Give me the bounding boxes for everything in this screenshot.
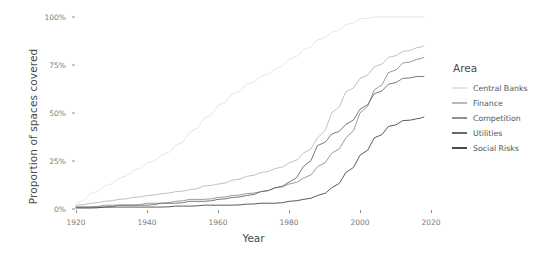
legend-item-label: Competition	[473, 114, 521, 123]
series-line-finance	[76, 46, 424, 205]
chart-figure: Proportion of spaces covered 100%75%50%2…	[0, 0, 551, 253]
legend: Area Central BanksFinanceCompetitionUtil…	[452, 62, 551, 156]
legend-line-icon	[452, 132, 467, 133]
legend-item-label: Finance	[473, 99, 503, 108]
legend-item-competition[interactable]: Competition	[452, 111, 551, 125]
legend-line-icon	[452, 87, 467, 88]
legend-line-icon	[452, 147, 467, 148]
legend-line-icon	[452, 102, 467, 103]
legend-item-utilities[interactable]: Utilities	[452, 126, 551, 140]
series-line-social-risks	[76, 117, 424, 208]
legend-item-label: Utilities	[473, 129, 502, 138]
legend-item-finance[interactable]: Finance	[452, 96, 551, 110]
legend-title: Area	[453, 62, 551, 74]
legend-item-label: Central Banks	[473, 84, 528, 93]
legend-item-social-risks[interactable]: Social Risks	[452, 141, 551, 155]
series-line-competition	[76, 57, 424, 207]
x-axis-title: Year	[76, 232, 431, 244]
series-line-central-banks	[76, 17, 424, 203]
legend-item-label: Social Risks	[473, 144, 519, 153]
legend-line-icon	[452, 117, 467, 118]
legend-item-central-banks[interactable]: Central Banks	[452, 81, 551, 95]
legend-items: Central BanksFinanceCompetitionUtilities…	[452, 81, 551, 155]
